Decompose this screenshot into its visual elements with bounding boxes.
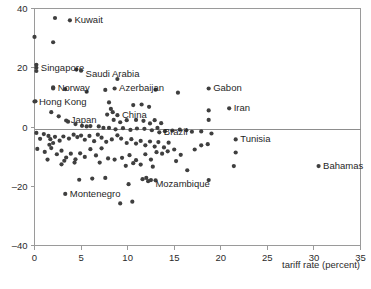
labeled-points-layer: KuwaitSingaporeSaudi ArabiaNorwayAzerbai… bbox=[32, 14, 363, 199]
data-point bbox=[79, 133, 83, 137]
data-point bbox=[92, 139, 96, 143]
data-point bbox=[172, 147, 176, 151]
data-point bbox=[35, 147, 39, 151]
data-point bbox=[61, 134, 65, 138]
data-point bbox=[96, 133, 100, 137]
data-point bbox=[140, 177, 144, 181]
x-tick-label: 5 bbox=[78, 252, 83, 263]
data-point bbox=[103, 88, 107, 92]
data-point bbox=[51, 141, 55, 145]
data-point bbox=[118, 120, 122, 124]
data-point-label: Saudi Arabia bbox=[86, 68, 141, 79]
data-point bbox=[140, 102, 144, 106]
data-point bbox=[155, 126, 159, 130]
data-point bbox=[67, 136, 71, 140]
data-point bbox=[47, 143, 51, 147]
data-point bbox=[159, 121, 163, 125]
scatter-chart-figure: 40200–20–40 05101520253035 KuwaitSingapo… bbox=[0, 0, 371, 289]
data-point bbox=[142, 127, 146, 131]
data-point bbox=[179, 153, 183, 157]
data-point bbox=[38, 137, 42, 141]
data-point bbox=[139, 139, 143, 143]
data-point-labeled bbox=[149, 178, 153, 182]
data-point bbox=[72, 133, 76, 137]
data-point bbox=[120, 156, 124, 160]
data-point bbox=[113, 127, 117, 131]
data-point bbox=[83, 155, 87, 159]
data-point bbox=[69, 152, 73, 156]
data-point-label: China bbox=[122, 109, 148, 120]
data-point-labeled bbox=[316, 164, 320, 168]
data-point bbox=[34, 131, 38, 135]
data-point bbox=[115, 133, 119, 137]
data-point bbox=[119, 136, 123, 140]
data-point bbox=[106, 156, 110, 160]
data-point-label: Japan bbox=[71, 114, 97, 125]
data-point-labeled bbox=[32, 99, 36, 103]
data-point bbox=[98, 160, 102, 164]
data-point bbox=[154, 150, 158, 154]
data-point bbox=[110, 137, 114, 141]
data-point bbox=[94, 153, 98, 157]
data-point bbox=[111, 110, 115, 114]
y-tick-label: 40 bbox=[17, 3, 28, 14]
data-point bbox=[134, 141, 138, 145]
data-point-label: Brazil bbox=[164, 126, 188, 137]
data-point bbox=[153, 118, 157, 122]
data-point bbox=[148, 139, 152, 143]
data-point bbox=[78, 151, 82, 155]
data-point bbox=[113, 157, 117, 161]
data-point-labeled bbox=[227, 106, 231, 110]
data-point-labeled bbox=[207, 86, 211, 90]
data-point-labeled bbox=[234, 137, 238, 141]
data-point-labeled bbox=[115, 113, 119, 117]
data-point bbox=[77, 178, 81, 182]
x-tick-label: 20 bbox=[215, 252, 226, 263]
data-point bbox=[128, 128, 132, 132]
data-point bbox=[162, 145, 166, 149]
data-point bbox=[167, 141, 171, 145]
data-point bbox=[232, 164, 236, 168]
data-point bbox=[156, 140, 160, 144]
x-axis-title: tariff rate (percent) bbox=[282, 259, 360, 270]
data-point bbox=[151, 165, 155, 169]
data-point-label: Iran bbox=[234, 102, 250, 113]
data-point bbox=[101, 126, 105, 130]
data-point bbox=[206, 142, 210, 146]
data-point bbox=[185, 168, 189, 172]
data-point bbox=[199, 129, 203, 133]
data-point-label: Bahamas bbox=[323, 160, 363, 171]
data-point-labeled bbox=[51, 86, 55, 90]
data-point bbox=[99, 146, 103, 150]
data-point-labeled bbox=[79, 69, 83, 73]
data-point bbox=[149, 157, 153, 161]
data-point-label: Singapore bbox=[41, 62, 84, 73]
data-point bbox=[103, 176, 107, 180]
data-point bbox=[176, 91, 180, 95]
data-point bbox=[32, 35, 36, 39]
data-point bbox=[125, 141, 129, 145]
data-point-labeled bbox=[34, 66, 38, 70]
data-point bbox=[87, 134, 91, 138]
data-point bbox=[129, 137, 133, 141]
data-point bbox=[45, 157, 49, 161]
data-point bbox=[207, 118, 211, 122]
data-point bbox=[124, 164, 128, 168]
y-tick-label: 0 bbox=[22, 122, 27, 133]
data-point bbox=[59, 149, 63, 153]
y-axis: 40200–20–40 bbox=[12, 3, 35, 251]
data-point bbox=[139, 163, 143, 167]
x-tick-label: 25 bbox=[262, 252, 273, 263]
data-point bbox=[190, 130, 194, 134]
data-point bbox=[147, 105, 151, 109]
data-point bbox=[150, 128, 154, 132]
data-point bbox=[134, 158, 138, 162]
data-point bbox=[55, 152, 59, 156]
data-point bbox=[83, 138, 87, 142]
data-point bbox=[49, 110, 53, 114]
data-point-labeled bbox=[64, 118, 68, 122]
data-point bbox=[209, 131, 213, 135]
data-point-label: Montenegro bbox=[70, 188, 121, 199]
data-point bbox=[207, 108, 211, 112]
data-point bbox=[126, 182, 130, 186]
